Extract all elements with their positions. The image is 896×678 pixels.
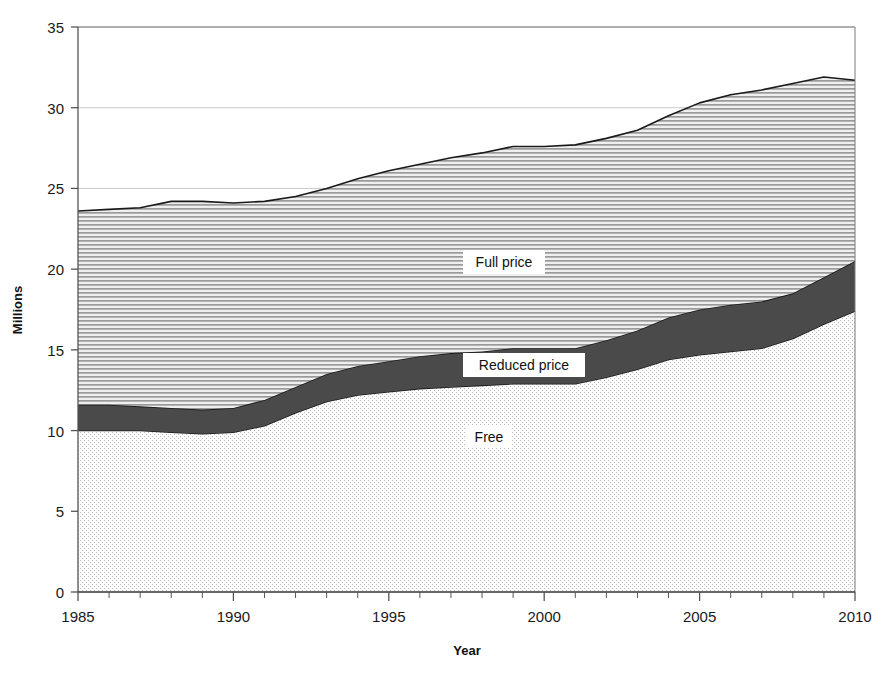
y-tick-label: 25 xyxy=(47,180,64,197)
x-tick-label: 1995 xyxy=(372,608,405,625)
x-tick-label: 1985 xyxy=(61,608,94,625)
x-tick-label: 2010 xyxy=(838,608,871,625)
stacked-area-chart: 05101520253035 198519901995200020052010 … xyxy=(0,0,896,678)
y-tick-label: 30 xyxy=(47,100,64,117)
annotation-text: Full price xyxy=(476,254,533,270)
y-tick-label: 0 xyxy=(56,584,64,601)
annotation-reduced-price: Reduced price xyxy=(463,353,585,377)
y-tick-label: 35 xyxy=(47,19,64,36)
y-tick-label: 5 xyxy=(56,503,64,520)
x-tick-label: 2000 xyxy=(528,608,561,625)
chart-canvas: 05101520253035 198519901995200020052010 … xyxy=(0,0,896,678)
x-axis-title: Year xyxy=(453,643,480,658)
y-axis-title: Millions xyxy=(10,286,25,334)
y-tick-label: 20 xyxy=(47,261,64,278)
x-tick-label: 1990 xyxy=(217,608,250,625)
y-tick-label: 15 xyxy=(47,342,64,359)
annotation-free: Free xyxy=(466,426,512,448)
annotation-full-price: Full price xyxy=(463,250,545,274)
annotation-text: Free xyxy=(475,429,504,445)
annotation-text: Reduced price xyxy=(479,357,569,373)
y-tick-label: 10 xyxy=(47,423,64,440)
x-tick-label: 2005 xyxy=(683,608,716,625)
